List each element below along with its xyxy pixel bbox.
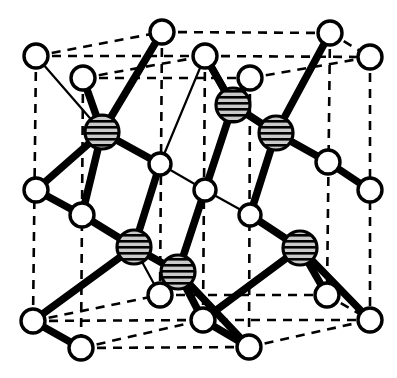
open-atom-center <box>194 179 216 201</box>
open-atom-right-edge-mid <box>358 178 382 202</box>
open-atom-top-mid-right <box>238 66 262 90</box>
lattice-svg <box>0 0 397 378</box>
open-atom-bottom-left <box>21 309 45 333</box>
open-atom-bottom-center <box>191 308 215 332</box>
open-atom-mid-right-upper <box>316 150 340 174</box>
shaded-atom-lower-right <box>283 231 317 265</box>
open-atom-left-inner-mid <box>70 203 94 227</box>
open-atom-bottom-front-mid <box>237 335 261 359</box>
shaded-atom-upper-right <box>259 116 293 150</box>
shaded-atom-lower-mid <box>161 255 195 289</box>
shaded-atom-lower-left <box>117 230 151 264</box>
shaded-atom-upper-left <box>85 115 119 149</box>
open-atom-top-back-mid <box>150 20 174 44</box>
shaded-atom-upper-mid <box>216 88 250 122</box>
open-atom-top-front-right <box>358 45 382 69</box>
open-atom-bottom-front-left <box>69 336 93 360</box>
open-atom-mid-right-lower <box>239 204 261 226</box>
open-atom-bottom-right <box>358 308 382 332</box>
open-atom-mid-left-upper <box>149 153 171 175</box>
open-atom-left-edge-mid <box>24 178 48 202</box>
open-atom-top-back-left <box>24 44 48 68</box>
open-atom-top-back-right <box>318 21 342 45</box>
crystal-structure-figure <box>0 0 397 378</box>
open-atom-top-front-mid <box>193 44 217 68</box>
open-atom-bottom-mid-right <box>315 283 339 307</box>
open-atom-top-mid-left <box>71 66 95 90</box>
